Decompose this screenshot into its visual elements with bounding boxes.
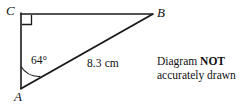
vertex-label-c: C — [6, 4, 15, 17]
angle-measure-label: 64° — [31, 54, 47, 66]
note-emphasis-not: NOT — [200, 55, 225, 67]
vertex-label-a: A — [14, 90, 22, 103]
side-length-label: 8.3 cm — [87, 57, 119, 69]
side-AB-hypotenuse — [21, 14, 152, 88]
angle-arc-marker — [21, 67, 40, 77]
diagram-canvas: C B A 64° 8.3 cm Diagram NOT accurately … — [0, 0, 252, 108]
note-line-1: Diagram NOT — [157, 55, 252, 69]
right-angle-marker — [22, 15, 32, 25]
note-line-1-prefix: Diagram — [157, 55, 200, 67]
note-line-2: accurately drawn — [157, 69, 252, 83]
vertex-label-b: B — [157, 6, 165, 19]
not-to-scale-note: Diagram NOT accurately drawn — [157, 55, 252, 82]
